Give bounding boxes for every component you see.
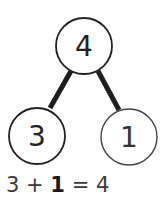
equation-missing: 1 — [50, 173, 65, 197]
part-value-left: 3 — [28, 120, 46, 153]
equation-plus: + — [26, 173, 44, 197]
connector-left — [50, 71, 71, 108]
number-bond-diagram: 4 3 1 — [0, 0, 168, 199]
connector-right — [98, 71, 119, 110]
part-value-right: 1 — [120, 121, 138, 154]
equation: 3 + 1 = 4 — [6, 173, 109, 197]
equation-result: 4 — [96, 173, 109, 197]
whole-value: 4 — [75, 30, 93, 63]
equation-left: 3 — [6, 173, 19, 197]
equation-equals: = — [72, 173, 90, 197]
